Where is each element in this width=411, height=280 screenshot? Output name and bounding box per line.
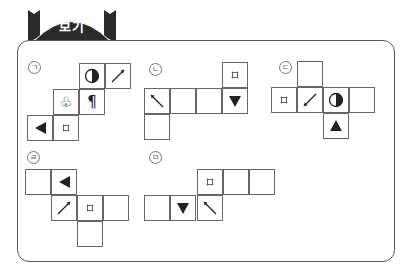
net-na-cell: [144, 114, 170, 140]
net-da-cell: [297, 61, 323, 87]
net-ga-cell: [53, 115, 79, 141]
net-ga-cell: [105, 63, 131, 89]
half-circle-icon: [84, 68, 100, 84]
arrow-up-right-icon: [55, 199, 73, 217]
net-ma-cell: [170, 195, 196, 221]
net-ma-cell: [249, 169, 275, 195]
triangle-down-icon: [228, 94, 242, 108]
net-ra-cell: [103, 195, 129, 221]
net-label-na: ㄴ: [149, 63, 162, 76]
net-ga-cell: [27, 115, 53, 141]
net-label-da: ㄷ: [279, 61, 292, 74]
arrow-down-left-icon: [301, 91, 319, 109]
net-da-cell: [297, 87, 323, 113]
net-ma-cell: [197, 169, 223, 195]
net-ma-cell: [197, 195, 223, 221]
pilcrow-icon: ¶: [87, 95, 97, 110]
net-da-cell: [323, 113, 349, 139]
net-na-cell: [222, 62, 248, 88]
triangle-down-icon: [176, 201, 190, 215]
triangle-left-icon: [33, 121, 47, 135]
net-ga-cell: ¶: [79, 89, 105, 115]
net-na-cell: [170, 88, 196, 114]
net-ma-cell: [144, 195, 170, 221]
net-da-cell: [323, 87, 349, 113]
header-title: 보기: [28, 16, 116, 35]
small-square-icon: [205, 177, 215, 187]
arrow-up-left-icon: [148, 92, 166, 110]
net-ma-cell: [223, 169, 249, 195]
net-na-cell: [196, 88, 222, 114]
net-da-cell: [271, 87, 297, 113]
net-label-ga: ㄱ: [28, 61, 41, 74]
net-ra-cell: [51, 195, 77, 221]
net-ra-cell: [25, 169, 51, 195]
net-ra-cell: [51, 169, 77, 195]
small-square-icon: [279, 95, 289, 105]
small-square-icon: [61, 123, 71, 133]
net-ra-cell: [77, 221, 103, 247]
net-da-cell: [349, 87, 375, 113]
net-ga-cell: ♧: [53, 89, 79, 115]
example-box: [17, 40, 395, 262]
triangle-left-icon: [57, 175, 71, 189]
small-square-icon: [230, 70, 240, 80]
club-icon: ♧: [60, 95, 73, 109]
net-na-cell: [144, 88, 170, 114]
net-label-ra: ㄹ: [27, 151, 40, 164]
triangle-up-icon: [329, 119, 343, 133]
net-ra-cell: [77, 195, 103, 221]
small-square-icon: [85, 203, 95, 213]
arrow-up-left-icon: [201, 199, 219, 217]
net-label-ma: ㅁ: [149, 151, 162, 164]
arrow-up-right-icon: [109, 67, 127, 85]
net-ga-cell: [79, 63, 105, 89]
net-na-cell: [222, 88, 248, 114]
half-circle-icon: [328, 92, 344, 108]
